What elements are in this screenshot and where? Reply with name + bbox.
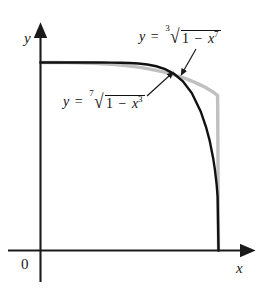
curve-label-seventh-root: y = 7 √ 1 − x3 (63, 94, 145, 111)
x-axis-label: x (236, 261, 243, 276)
leader-arrow-lower-label (147, 76, 169, 96)
label-lower-radicand: 1 − x3 (105, 95, 145, 111)
leader-arrow-upper-label (184, 49, 196, 70)
origin-label: 0 (21, 257, 29, 272)
label-lower-equals: = (73, 94, 85, 109)
label-upper-exponent: 7 (214, 29, 219, 39)
label-lower-exponent: 3 (138, 94, 143, 104)
label-lower-lhs: y (63, 94, 69, 109)
label-upper-radical: 3 √ 1 − x7 (165, 29, 220, 46)
label-upper-lhs: y (139, 29, 145, 44)
label-upper-one: 1 (182, 31, 189, 46)
label-lower-radical: 7 √ 1 − x3 (89, 94, 144, 111)
label-upper-minus: − (192, 31, 204, 46)
curve-label-cube-root: y = 3 √ 1 − x7 (139, 29, 221, 46)
label-upper-radicand: 1 − x7 (181, 30, 221, 46)
curve-seventh-root-of-one-minus-x-cubed (41, 63, 219, 251)
plot-area (0, 0, 264, 292)
figure-canvas: y x 0 y = 3 √ 1 − x7 y = 7 √ (0, 0, 264, 292)
radical-sign-icon: √ (89, 91, 103, 111)
curve-cube-root-of-one-minus-x-seventh (41, 63, 219, 251)
radical-sign-icon: √ (165, 26, 179, 46)
label-lower-minus: − (116, 96, 128, 111)
label-upper-equals: = (149, 29, 161, 44)
label-lower-one: 1 (106, 96, 113, 111)
y-axis-label: y (24, 31, 31, 46)
